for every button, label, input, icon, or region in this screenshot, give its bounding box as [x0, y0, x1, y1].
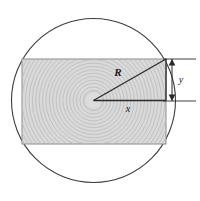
- label-radius-R: R: [113, 66, 121, 78]
- dimension-arrow-up-icon: [169, 59, 176, 66]
- label-half-height-y: y: [178, 74, 184, 85]
- figure-container: R x y: [0, 0, 200, 201]
- dimension-arrow-down-icon: [169, 95, 176, 102]
- label-half-width-x: x: [125, 103, 131, 114]
- geometry-diagram: R x y: [0, 0, 200, 201]
